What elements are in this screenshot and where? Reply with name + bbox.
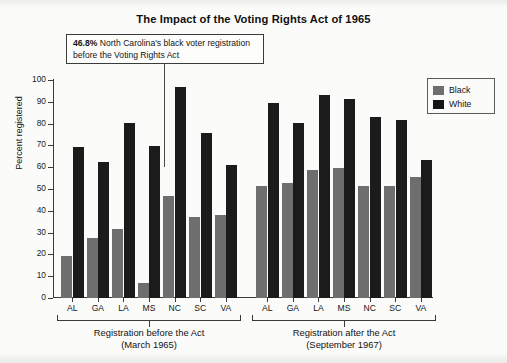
legend-swatch-black-icon: [433, 86, 444, 95]
bar-black: [112, 229, 123, 298]
y-tick-label: 60: [20, 161, 46, 171]
bar-white: [201, 133, 212, 298]
annotation-callout: 46.8% North Carolina's black voter regis…: [66, 34, 264, 64]
legend-item-black: Black: [433, 83, 494, 97]
group-label-line2: (September 1967): [244, 339, 444, 351]
bar-white: [370, 117, 381, 298]
bar-black: [282, 183, 293, 298]
x-tick: [72, 298, 73, 302]
legend-label-black: Black: [449, 85, 471, 95]
chart-page: The Impact of the Voting Rights Act of 1…: [0, 0, 507, 363]
x-tick: [149, 298, 150, 302]
x-tick: [370, 298, 371, 302]
bar-black: [384, 186, 395, 298]
group-label-line1: Registration after the Act: [244, 327, 444, 339]
y-tick-label: 40: [20, 205, 46, 215]
bar-black: [163, 196, 174, 298]
y-tick-label: 70: [20, 139, 46, 149]
y-tick-label: 90: [20, 96, 46, 106]
y-tick-label: 50: [20, 183, 46, 193]
group-label-line1: Registration before the Act: [49, 327, 249, 339]
bar-black: [333, 168, 344, 298]
legend-swatch-white-icon: [433, 100, 444, 109]
annotation-value: 46.8%: [73, 38, 97, 48]
x-tick: [318, 298, 319, 302]
y-tick-label: 10: [20, 270, 46, 280]
y-tick-label: 0: [20, 292, 46, 302]
bar-white: [396, 120, 407, 298]
bar-black: [189, 217, 200, 298]
x-tick: [98, 298, 99, 302]
x-tick: [200, 298, 201, 302]
x-tick: [395, 298, 396, 302]
x-tick-label-va: VA: [211, 303, 241, 313]
x-tick: [267, 298, 268, 302]
chart-title: The Impact of the Voting Rights Act of 1…: [0, 13, 507, 25]
bar-black: [87, 238, 98, 298]
bar-black: [138, 283, 149, 298]
legend: Black White: [427, 78, 495, 114]
bar-black: [61, 256, 72, 298]
annotation-text: North Carolina's black voter registratio…: [73, 38, 250, 60]
bar-white: [149, 146, 160, 298]
y-tick-label: 30: [20, 227, 46, 237]
bar-black: [358, 186, 369, 298]
x-tick-label-va: VA: [406, 303, 436, 313]
x-tick: [123, 298, 124, 302]
bar-black: [215, 215, 226, 298]
x-tick: [293, 298, 294, 302]
bar-white: [73, 147, 84, 298]
bar-white: [319, 95, 330, 298]
bar-white: [268, 103, 279, 298]
x-tick: [226, 298, 227, 302]
bar-white: [344, 99, 355, 298]
legend-label-white: White: [449, 99, 472, 109]
x-tick: [175, 298, 176, 302]
legend-item-white: White: [433, 97, 494, 111]
bar-white: [98, 162, 109, 298]
y-tick-label: 80: [20, 118, 46, 128]
bar-black: [256, 186, 267, 298]
y-tick-label: 100: [20, 74, 46, 84]
bar-white: [124, 123, 135, 298]
y-tick: [48, 298, 53, 299]
y-axis-labels: 1009080706050403020100: [12, 80, 46, 298]
x-tick: [421, 298, 422, 302]
plot-area: [53, 80, 432, 298]
x-tick: [344, 298, 345, 302]
group-label-after: Registration after the Act(September 196…: [244, 327, 444, 352]
group-label-line2: (March 1965): [49, 339, 249, 351]
bar-white: [226, 165, 237, 298]
bar-white: [293, 123, 304, 298]
bar-white: [421, 160, 432, 298]
bar-black: [307, 170, 318, 298]
bar-white: [175, 87, 186, 298]
bar-black: [410, 177, 421, 298]
group-label-before: Registration before the Act(March 1965): [49, 327, 249, 352]
y-tick-label: 20: [20, 248, 46, 258]
